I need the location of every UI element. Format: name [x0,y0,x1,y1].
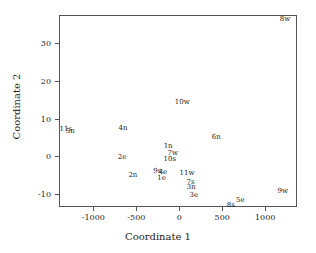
data-point-label: 5n [66,128,75,135]
x-tick-label: 1000 [255,213,275,222]
x-tick-label: 500 [215,213,230,222]
x-tick-mark [265,207,266,211]
y-tick-mark [55,119,59,120]
data-point-label: 10w [175,98,190,105]
data-point-label: 5e [236,197,245,204]
data-point-label: 9w [278,187,288,194]
y-tick-label: 0 [46,152,51,161]
data-point-label: 8s [227,202,235,209]
y-tick-label: 20 [41,76,51,85]
data-point-label: 11w [180,169,195,176]
x-axis-title: Coordinate 1 [0,231,316,242]
x-tick-mark [222,207,223,211]
y-tick-label: -10 [38,189,51,198]
data-point-label: 10s [164,156,177,163]
x-tick-mark [136,207,137,211]
y-tick-mark [55,43,59,44]
y-tick-label: 30 [41,39,51,48]
data-point-label: 3e [190,191,199,198]
data-point-label: 6n [212,133,221,140]
data-point-label: 4n [119,124,128,131]
y-tick-label: 10 [41,114,51,123]
y-axis-title: Coordinate 2 [11,47,22,167]
x-tick-mark [93,207,94,211]
data-point-label: 2n [128,172,137,179]
y-tick-mark [55,194,59,195]
scatter-plot-figure: -1000-50005001000 -100102030 8w10w11s5n4… [0,0,316,253]
data-point-label: 2e [118,154,127,161]
data-point-label: 1e [157,175,166,182]
x-tick-mark [179,207,180,211]
plot-area [59,15,297,207]
x-tick-label: 0 [177,213,182,222]
data-point-label: 8w [280,15,290,22]
y-tick-mark [55,81,59,82]
y-tick-mark [55,156,59,157]
x-tick-label: -500 [127,213,145,222]
x-tick-label: -1000 [82,213,105,222]
